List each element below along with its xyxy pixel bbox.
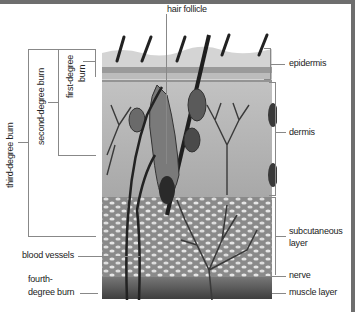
label-first-degree-line1: first-degree	[65, 55, 75, 98]
label-first-degree-line2: burn	[77, 65, 87, 82]
bracket-dermis-bottom	[269, 195, 276, 196]
leader-hair-follicle	[166, 14, 167, 164]
label-nerve: nerve	[289, 270, 311, 281]
bracket-third-vertical	[28, 186, 29, 237]
frame-right-border	[351, 0, 355, 312]
bracket-third-bottom	[28, 236, 96, 237]
leader-first-degree	[83, 61, 95, 62]
leader-muscle-layer	[272, 293, 286, 294]
bracket-dermis	[275, 82, 276, 196]
label-dermis: dermis	[289, 127, 315, 138]
leader-dermis	[276, 132, 286, 133]
bracket-first-epidermis	[95, 49, 96, 77]
leader-subcutaneous	[276, 236, 286, 237]
label-subcutaneous-line2: layer	[289, 238, 308, 249]
leader-epidermis	[271, 64, 285, 65]
bracket-first-bottom	[58, 155, 96, 156]
bracket-epidermis-top	[264, 48, 271, 49]
label-third-degree: third-degree burn	[5, 122, 15, 188]
bracket-second-top	[28, 49, 58, 50]
label-epidermis: epidermis	[289, 58, 326, 69]
bracket-epidermis-bottom	[264, 79, 271, 80]
label-hair-follicle: hair follicle	[167, 4, 207, 15]
bracket-first-top	[58, 49, 96, 50]
leader-fourth-degree	[80, 293, 98, 294]
bracket-dermis-top	[269, 82, 276, 83]
leader-blood-vessels	[78, 256, 140, 257]
label-muscle-layer: muscle layer	[289, 287, 337, 298]
label-blood-vessels: blood vessels	[22, 250, 74, 261]
bracket-subcutaneous-top	[269, 197, 276, 198]
bracket-second-vertical	[28, 49, 29, 186]
label-fourth-degree-line1: fourth-	[28, 274, 53, 285]
leader-third-degree	[18, 142, 28, 143]
leader-nerve	[266, 276, 286, 277]
leader-second-degree	[48, 102, 58, 103]
label-fourth-degree-line2: degree burn	[28, 287, 74, 298]
bracket-first-vertical	[58, 49, 59, 155]
skin-cross-section-illustration	[97, 25, 277, 300]
label-subcutaneous-line1: subcutaneous	[289, 226, 343, 237]
label-second-degree: second-degree burn	[36, 68, 46, 145]
